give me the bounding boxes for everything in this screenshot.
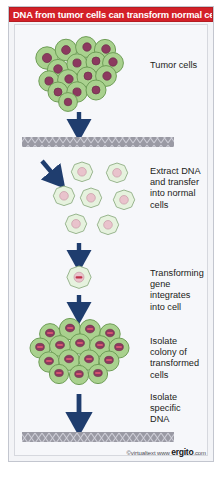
credit-tld: .com	[193, 450, 206, 456]
credit-www: www	[157, 450, 170, 456]
stage-label-isolate-colony: Isolate colony of transformed cells	[150, 336, 199, 381]
credit-line: ©virtualtext www ergito.com	[127, 447, 206, 457]
credit-copyright: ©virtualtext	[127, 450, 156, 456]
stage-label-transforming-gene: Transforming gene integrates into cell	[150, 268, 204, 313]
figure-title-banner: DNA from tumor cells can transform norma…	[9, 7, 213, 22]
stage-label-tumor-cells: Tumor cells	[150, 60, 197, 71]
credit-brand: ergito	[171, 447, 193, 457]
stage-label-extract-dna: Extract DNA and transfer into normal cel…	[150, 166, 201, 211]
figure-root: DNA from tumor cells can transform norma…	[0, 0, 222, 477]
stage-label-isolate-dna: Isolate specific DNA	[150, 392, 181, 426]
